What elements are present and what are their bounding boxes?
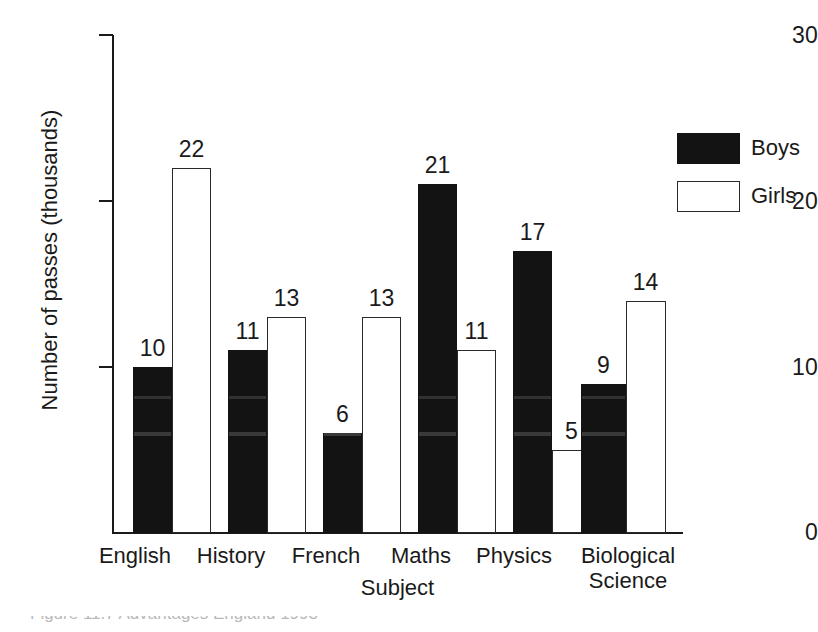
legend-swatch-girls-icon <box>677 181 740 212</box>
value-boys-physics: 17 <box>503 221 562 244</box>
y-tick-label-30: 30 <box>726 24 818 47</box>
value-girls-maths: 11 <box>447 320 506 343</box>
value-boys-maths: 21 <box>408 154 467 177</box>
value-boys-biological-science: 9 <box>574 354 633 377</box>
y-tick-30 <box>99 34 113 36</box>
y-tick-label-0: 0 <box>726 521 818 544</box>
bar-girls-maths[interactable] <box>457 350 496 533</box>
value-girls-english: 22 <box>162 138 221 161</box>
legend-label-boys: Boys <box>751 135 800 161</box>
x-label-french: French <box>271 543 381 568</box>
x-label-english-line1: English <box>99 543 171 568</box>
value-girls-history: 13 <box>257 287 316 310</box>
legend-label-girls: Girls <box>751 183 796 209</box>
x-label-biological-science: Biological Science <box>563 543 693 593</box>
bar-chart-figure: Number of passes (thousands) Subject 30 … <box>0 0 818 632</box>
x-label-english: English <box>80 543 190 568</box>
value-boys-history: 11 <box>218 320 277 343</box>
x-label-maths-line1: Maths <box>391 543 451 568</box>
bar-boys-maths[interactable] <box>418 184 457 533</box>
value-boys-english: 10 <box>123 337 182 360</box>
bar-boys-french[interactable] <box>323 433 362 533</box>
x-label-history-line1: History <box>197 543 265 568</box>
figure-caption-text: Figure 11.7 Advantages England 1993 <box>30 616 318 624</box>
bar-boys-history[interactable] <box>228 350 267 533</box>
bar-boys-physics[interactable] <box>513 251 552 533</box>
legend-item-boys[interactable]: Boys <box>677 131 812 179</box>
bar-boys-english[interactable] <box>133 367 172 533</box>
value-boys-french: 6 <box>313 403 372 426</box>
figure-caption: Figure 11.7 Advantages England 1993 <box>30 616 450 632</box>
value-girls-french: 13 <box>352 287 411 310</box>
x-label-french-line1: French <box>292 543 360 568</box>
x-label-biological-science-line1: Biological <box>581 543 675 568</box>
legend: Boys Girls <box>677 131 812 227</box>
value-girls-biological-science: 14 <box>616 271 675 294</box>
x-label-physics-line1: Physics <box>476 543 552 568</box>
legend-swatch-boys-icon <box>677 133 740 164</box>
plot-area: 10 22 11 13 6 13 21 11 17 5 9 14 <box>113 35 682 533</box>
y-tick-label-10: 10 <box>726 356 818 379</box>
bar-girls-biological-science[interactable] <box>626 301 666 533</box>
x-label-biological-science-line2: Science <box>589 568 667 593</box>
bar-boys-biological-science[interactable] <box>581 384 626 533</box>
y-axis-title: Number of passes (thousands) <box>38 10 62 510</box>
y-tick-10 <box>99 366 113 368</box>
x-label-history: History <box>176 543 286 568</box>
bar-girls-history[interactable] <box>267 317 306 533</box>
x-label-physics: Physics <box>459 543 569 568</box>
legend-item-girls[interactable]: Girls <box>677 179 812 227</box>
value-girls-physics: 5 <box>542 420 601 443</box>
y-tick-20 <box>99 200 113 202</box>
